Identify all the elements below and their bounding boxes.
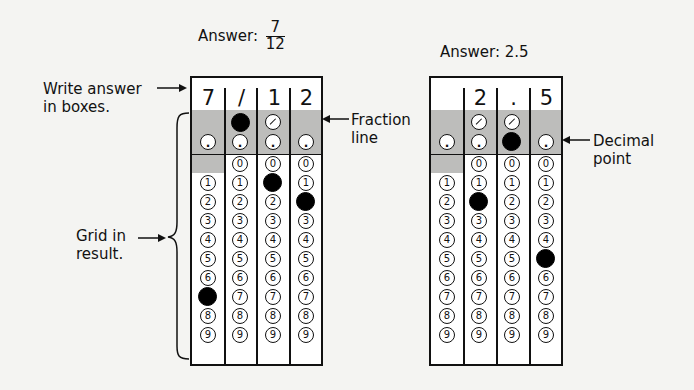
annotation-text: Grid in [76,227,126,245]
digit-bubble[interactable]: 4 [232,232,248,248]
decimal-bubble[interactable] [232,134,248,150]
answer-box[interactable]: 2 [464,78,497,110]
decimal-bubble[interactable] [471,134,487,150]
digit-bubble[interactable]: 8 [471,308,487,324]
digit-bubble[interactable]: 8 [439,308,455,324]
digit-bubble[interactable]: 0 [538,156,554,172]
digit-bubble-filled[interactable]: 1 [263,173,282,192]
digit-bubble[interactable]: 6 [504,270,520,286]
decimal-bubble-filled[interactable] [502,132,521,151]
digit-bubble[interactable]: 9 [471,327,487,343]
decimal-bubble[interactable] [200,134,216,150]
digit-bubble[interactable]: 1 [200,175,216,191]
digit-bubble[interactable]: 4 [200,232,216,248]
digit-bubble[interactable]: 1 [298,175,314,191]
digit-bubble[interactable]: 9 [200,327,216,343]
digit-bubble[interactable]: 4 [265,232,281,248]
digit-bubble[interactable]: 7 [232,289,248,305]
digit-bubble-filled[interactable]: 7 [198,287,217,306]
digit-bubble[interactable]: 9 [538,327,554,343]
digit-bubble[interactable]: 7 [265,289,281,305]
digit-bubble[interactable]: 6 [200,270,216,286]
digit-bubble[interactable]: 5 [504,251,520,267]
digit-bubble[interactable]: 2 [504,194,520,210]
digit-bubble[interactable]: 8 [232,308,248,324]
digit-bubble-filled[interactable]: 5 [536,249,555,268]
decimal-bubble[interactable] [538,134,554,150]
decimal-bubble[interactable] [298,134,314,150]
digit-bubble[interactable]: 2 [200,194,216,210]
digit-bubble-filled[interactable]: 2 [296,192,315,211]
slash-bubble[interactable] [504,114,520,130]
digit-bubble[interactable]: 4 [471,232,487,248]
slash-bubble[interactable] [265,114,281,130]
digit-bubble[interactable]: 0 [265,156,281,172]
digit-bubble[interactable]: 3 [504,213,520,229]
digit-bubble[interactable]: 9 [439,327,455,343]
digit-bubble[interactable]: 9 [232,327,248,343]
digit-bubble[interactable]: 6 [298,270,314,286]
digit-bubble[interactable]: 6 [265,270,281,286]
digit-bubble[interactable]: 4 [439,232,455,248]
digit-bubble[interactable]: 5 [439,251,455,267]
digit-bubble[interactable]: 2 [538,194,554,210]
digit-bubble[interactable]: 7 [538,289,554,305]
digit-bubble[interactable]: 8 [538,308,554,324]
digit-bubble-filled[interactable]: 2 [469,192,488,211]
digit-bubble[interactable]: 3 [265,213,281,229]
divider [529,110,531,364]
digit-bubble[interactable]: 8 [200,308,216,324]
digit-bubble[interactable]: 1 [471,175,487,191]
digit-bubble[interactable]: 3 [298,213,314,229]
digit-bubble[interactable]: 2 [232,194,248,210]
answer-box[interactable]: 2 [290,78,323,110]
digit-bubble[interactable]: 0 [298,156,314,172]
digit-bubble[interactable]: 0 [471,156,487,172]
digit-bubble[interactable]: 0 [504,156,520,172]
digit-bubble[interactable]: 2 [439,194,455,210]
answer-box[interactable]: 5 [530,78,563,110]
answer-box[interactable]: / [225,78,258,110]
digit-bubble[interactable]: 1 [439,175,455,191]
answer-box[interactable]: 1 [258,78,291,110]
digit-bubble[interactable]: 9 [504,327,520,343]
digit-bubble[interactable]: 0 [232,156,248,172]
digit-bubble[interactable]: 6 [471,270,487,286]
digit-bubble[interactable]: 3 [439,213,455,229]
decimal-bubble[interactable] [439,134,455,150]
digit-bubble[interactable]: 5 [200,251,216,267]
digit-bubble[interactable]: 8 [298,308,314,324]
digit-bubble[interactable]: 8 [265,308,281,324]
digit-bubble[interactable]: 3 [200,213,216,229]
digit-bubble[interactable]: 6 [439,270,455,286]
digit-bubble[interactable]: 9 [265,327,281,343]
digit-bubble[interactable]: 3 [232,213,248,229]
digit-bubble[interactable]: 3 [471,213,487,229]
digit-bubble[interactable]: 1 [232,175,248,191]
digit-bubble[interactable]: 4 [538,232,554,248]
digit-bubble[interactable]: 7 [439,289,455,305]
digit-bubble[interactable]: 9 [298,327,314,343]
digit-bubble[interactable]: 5 [298,251,314,267]
answer-box[interactable]: 7 [192,78,225,110]
digit-bubble[interactable]: 2 [265,194,281,210]
digit-bubble[interactable]: 7 [504,289,520,305]
digit-bubble[interactable]: 5 [232,251,248,267]
decimal-bubble[interactable] [265,134,281,150]
slash-bubble-filled[interactable] [231,113,250,132]
digit-bubble[interactable]: 1 [538,175,554,191]
slash-bubble[interactable] [471,114,487,130]
digit-bubble[interactable]: 4 [298,232,314,248]
digit-bubble[interactable]: 6 [232,270,248,286]
digit-bubble[interactable]: 7 [471,289,487,305]
digit-bubble[interactable]: 4 [504,232,520,248]
answer-box[interactable] [431,78,464,110]
answer-box[interactable]: . [497,78,530,110]
digit-bubble[interactable]: 1 [504,175,520,191]
digit-bubble[interactable]: 5 [471,251,487,267]
digit-bubble[interactable]: 7 [298,289,314,305]
digit-bubble[interactable]: 5 [265,251,281,267]
digit-bubble[interactable]: 3 [538,213,554,229]
digit-bubble[interactable]: 8 [504,308,520,324]
digit-bubble[interactable]: 6 [538,270,554,286]
